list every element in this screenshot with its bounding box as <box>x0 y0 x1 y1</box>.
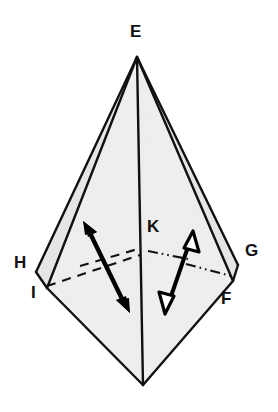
vertex-label-K: K <box>147 218 159 235</box>
geometry-figure: E H I K G F <box>0 0 278 412</box>
vertex-label-F: F <box>221 290 231 307</box>
vertex-label-G: G <box>245 242 258 259</box>
figure-canvas <box>0 0 278 412</box>
vertex-label-H: H <box>14 254 26 271</box>
vertex-label-E: E <box>130 23 141 40</box>
vertex-label-I: I <box>31 284 36 301</box>
